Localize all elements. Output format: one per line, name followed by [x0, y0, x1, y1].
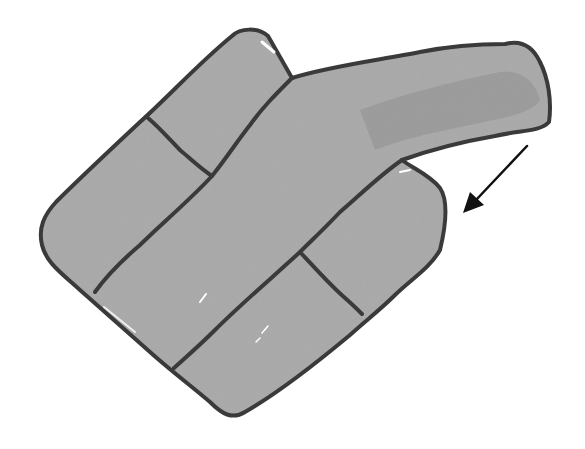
illustration-canvas: hand-drawn gray watercolor shape of roun… — [0, 0, 585, 449]
arrow-down-left-icon — [463, 146, 527, 213]
hand-bricks-illustration — [0, 0, 585, 449]
